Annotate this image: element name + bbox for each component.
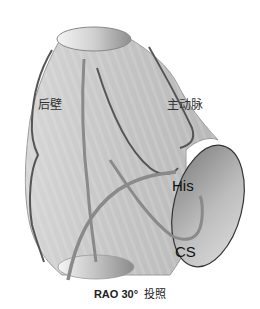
top-opening bbox=[57, 27, 131, 51]
label-his: His bbox=[172, 178, 194, 193]
figure-caption: RAO 30°投照 bbox=[0, 289, 260, 300]
caption-suffix: 投照 bbox=[144, 288, 166, 301]
caption-projection: RAO 30° bbox=[94, 288, 138, 300]
label-posterior-wall: 后壁 bbox=[38, 99, 62, 111]
label-cs: CS bbox=[175, 244, 196, 259]
heart-diagram: 后壁 主动脉 His CS RAO 30°投照 bbox=[0, 0, 260, 309]
label-aorta: 主动脉 bbox=[167, 99, 203, 111]
heart-illustration bbox=[0, 0, 260, 309]
